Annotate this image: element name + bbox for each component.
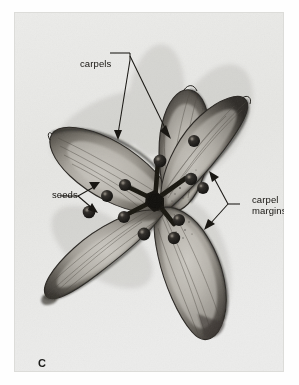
- annotation-label-carpels: carpels: [80, 59, 111, 70]
- figure-root: carpels seeds carpel margins C: [0, 0, 299, 385]
- specimen-photograph: carpels seeds carpel margins C: [14, 12, 284, 372]
- carpel-margins-line-2: margins: [252, 205, 284, 216]
- annotation-label-seeds: seeds: [52, 190, 78, 201]
- plate-letter: C: [38, 357, 46, 369]
- carpel-margins-line-1: carpel: [252, 194, 278, 205]
- annotation-label-carpel-margins: carpel margins: [252, 194, 284, 216]
